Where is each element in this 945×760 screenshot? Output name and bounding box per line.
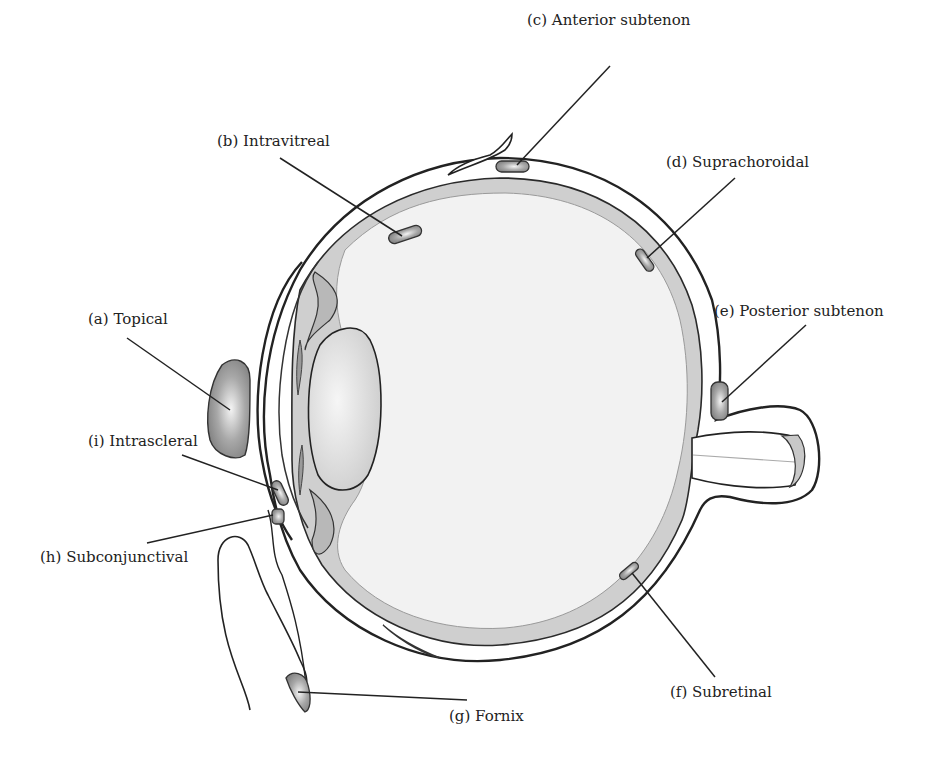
depot-subconjunctival bbox=[272, 509, 284, 524]
depot-anterior-subtenon bbox=[496, 161, 529, 172]
label-subconjunctival: (h) Subconjunctival bbox=[40, 548, 188, 566]
depot-posterior-subtenon bbox=[711, 382, 728, 420]
label-fornix: (g) Fornix bbox=[449, 707, 524, 725]
label-intrascleral: (i) Intrascleral bbox=[88, 432, 198, 450]
leader-line-topical bbox=[127, 338, 230, 410]
leader-line-subconjunctival bbox=[147, 515, 273, 543]
leader-line-anterior-subtenon bbox=[517, 66, 610, 165]
leader-line-fornix bbox=[298, 692, 467, 700]
leader-line-subretinal bbox=[632, 573, 715, 677]
label-intravitreal: (b) Intravitreal bbox=[217, 132, 330, 150]
eye-cross-section-drawing bbox=[0, 0, 945, 760]
label-suprachoroidal: (d) Suprachoroidal bbox=[666, 153, 809, 171]
label-posterior-subtenon: (e) Posterior subtenon bbox=[714, 302, 884, 320]
leader-line-posterior-subtenon bbox=[722, 325, 806, 402]
label-subretinal: (f) Subretinal bbox=[670, 683, 772, 701]
eye-drug-delivery-diagram: (c) Anterior subtenon (b) Intravitreal (… bbox=[0, 0, 945, 760]
optic-nerve bbox=[692, 432, 805, 488]
label-topical: (a) Topical bbox=[88, 310, 168, 328]
lens bbox=[308, 328, 381, 490]
label-anterior-subtenon: (c) Anterior subtenon bbox=[527, 11, 690, 29]
